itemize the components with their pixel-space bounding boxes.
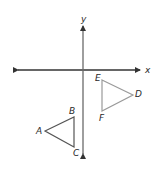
y-axis: y bbox=[80, 14, 87, 154]
vertex-label-d: D bbox=[135, 89, 142, 99]
vertex-label-e: E bbox=[95, 73, 101, 83]
vertex-label-c: C bbox=[73, 148, 80, 158]
vertex-label-f: F bbox=[99, 113, 105, 123]
vertex-label-a: A bbox=[35, 126, 42, 136]
x-axis-label: x bbox=[144, 65, 151, 75]
triangle-edf: E D F bbox=[95, 73, 142, 123]
coordinate-plane-diagram: x y A B C E D F bbox=[0, 0, 154, 183]
x-axis: x bbox=[18, 65, 151, 75]
y-axis-label: y bbox=[80, 14, 87, 24]
vertex-label-b: B bbox=[69, 106, 75, 116]
triangle-abc: A B C bbox=[35, 106, 80, 158]
